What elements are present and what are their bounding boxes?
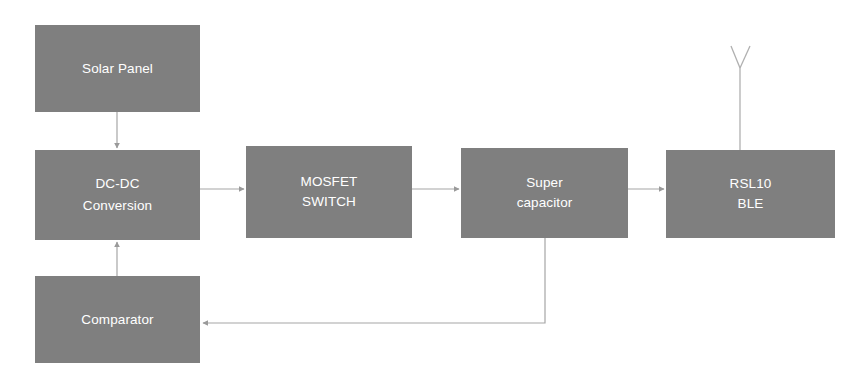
- block-rsl10-ble-label-1: RSL10: [730, 174, 772, 194]
- block-diagram-canvas: Solar Panel DC-DC Conversion MOSFET SWIT…: [0, 0, 854, 383]
- block-dc-dc-conversion-label-2: Conversion: [83, 196, 152, 216]
- block-dc-dc-conversion-label-1: DC-DC: [96, 174, 140, 194]
- block-rsl10-ble-label-2: BLE: [738, 194, 764, 214]
- block-super-capacitor-label-2: capacitor: [517, 193, 573, 213]
- block-solar-panel-label-1: Solar Panel: [82, 59, 153, 79]
- block-super-capacitor[interactable]: Super capacitor: [461, 148, 628, 238]
- block-comparator[interactable]: Comparator: [35, 276, 200, 363]
- antenna-icon: [731, 46, 750, 150]
- block-mosfet-switch-label-2: SWITCH: [302, 192, 356, 212]
- block-comparator-label-1: Comparator: [81, 310, 153, 330]
- block-dc-dc-conversion[interactable]: DC-DC Conversion: [35, 150, 200, 240]
- block-super-capacitor-label-1: Super: [526, 173, 563, 193]
- block-rsl10-ble[interactable]: RSL10 BLE: [666, 150, 835, 238]
- block-solar-panel[interactable]: Solar Panel: [35, 25, 200, 112]
- block-mosfet-switch[interactable]: MOSFET SWITCH: [246, 146, 412, 238]
- connector-supercap-to-comparator: [203, 238, 545, 323]
- block-mosfet-switch-label-1: MOSFET: [301, 172, 358, 192]
